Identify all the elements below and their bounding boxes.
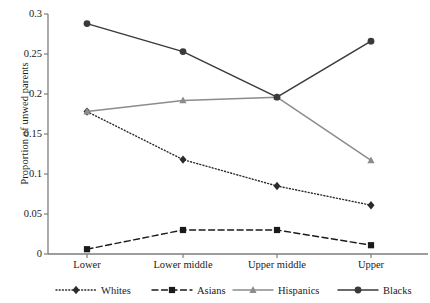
data-point-whites [274,182,281,190]
series-line-whites [87,112,371,206]
axes [44,14,428,258]
data-point-hispanics [367,157,374,164]
series-asians [84,227,374,252]
data-point-whites [180,155,187,163]
data-point-whites [368,201,375,209]
data-point-blacks [274,94,281,101]
data-series-layer [83,20,374,252]
chart-canvas [0,0,430,303]
series-blacks [84,20,375,100]
series-line-hispanics [87,97,371,160]
data-point-asians [180,227,186,233]
series-whites [84,107,375,209]
line-chart-figure: Proportion of unwed parents 0.3 0.25 0.2… [0,0,430,303]
data-point-blacks [180,48,187,55]
series-hispanics [83,93,374,163]
legend-marker-asians [169,287,175,293]
data-point-blacks [368,38,375,45]
data-point-asians [368,242,374,248]
series-line-asians [87,230,371,249]
data-point-blacks [84,20,91,27]
data-point-asians [84,246,90,252]
legend-marker-blacks [355,287,362,294]
legend-markers [56,286,378,294]
series-line-blacks [87,24,371,98]
legend-marker-whites [73,286,80,294]
data-point-asians [274,227,280,233]
